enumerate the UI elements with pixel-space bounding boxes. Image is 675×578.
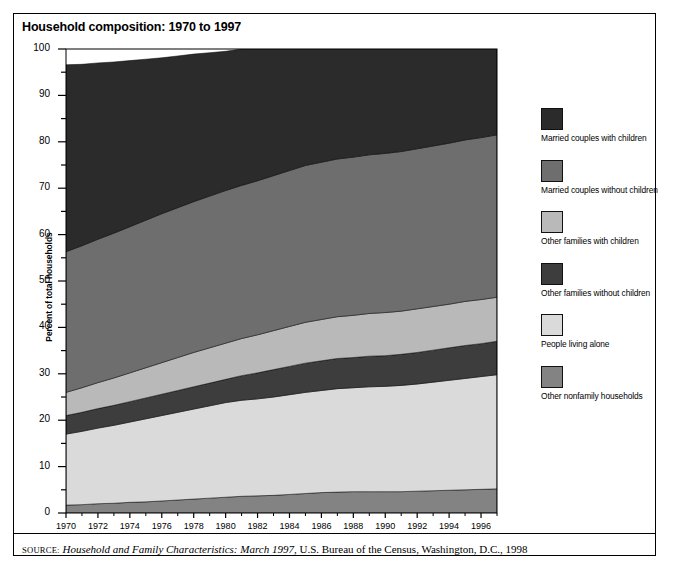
legend-label: Other families with children [541, 236, 661, 246]
legend-label: Married couples without children [541, 185, 661, 195]
legend-item: Married couples with children [541, 108, 661, 143]
source-divider [14, 533, 655, 534]
y-tick-label: 100 [24, 42, 50, 53]
y-tick-label: 90 [24, 88, 50, 99]
y-tick-label: 40 [24, 320, 50, 331]
legend-swatch-icon [541, 108, 563, 130]
legend-item: People living alone [541, 314, 661, 349]
legend-swatch-icon [541, 211, 563, 233]
chart-title: Household composition: 1970 to 1997 [22, 20, 241, 34]
legend-item: Other families with children [541, 211, 661, 246]
legend-swatch-icon [541, 314, 563, 336]
source-title: Household and Family Characteristics: Ma… [62, 543, 293, 555]
y-tick-label: 30 [24, 367, 50, 378]
legend-label: Other families without children [541, 288, 661, 298]
y-tick-label: 70 [24, 181, 50, 192]
legend-swatch-icon [541, 263, 563, 285]
source-note: SOURCE: Household and Family Characteris… [22, 543, 528, 555]
legend-item: Married couples without children [541, 160, 661, 195]
source-label: SOURCE: [22, 545, 60, 555]
y-tick-label: 10 [24, 460, 50, 471]
legend-label: People living alone [541, 339, 661, 349]
legend-item: Other families without children [541, 263, 661, 298]
legend-label: Other nonfamily households [541, 391, 661, 401]
legend-label: Married couples with children [541, 133, 661, 143]
legend-item: Other nonfamily households [541, 366, 661, 401]
y-tick-label: 80 [24, 135, 50, 146]
y-tick-label: 0 [24, 506, 50, 517]
y-tick-label: 50 [24, 274, 50, 285]
legend-swatch-icon [541, 366, 563, 388]
chart-legend: Married couples with childrenMarried cou… [541, 108, 661, 417]
legend-swatch-icon [541, 160, 563, 182]
source-rest: , U.S. Bureau of the Census, Washington,… [294, 543, 528, 555]
x-tick-label: 1996 [461, 521, 501, 531]
y-tick-label: 20 [24, 413, 50, 424]
y-tick-label: 60 [24, 228, 50, 239]
